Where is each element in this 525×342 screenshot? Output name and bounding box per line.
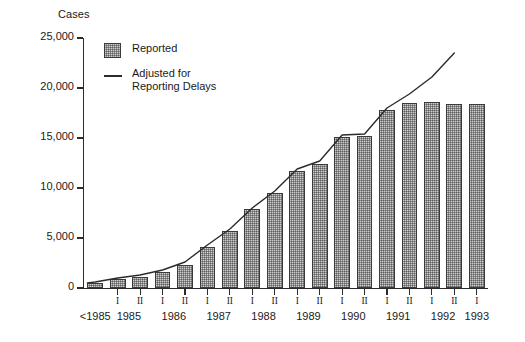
x-axis-tick [319, 289, 320, 295]
y-axis-tick-label: 5,000 [0, 230, 74, 242]
x-axis-year-label: <1985 [80, 310, 111, 322]
x-axis-tick [252, 289, 253, 295]
x-axis-year-label: 1993 [465, 310, 489, 322]
y-axis-tick-label-wrap: 15,000 [0, 130, 74, 142]
x-axis-period-label: II [316, 296, 322, 306]
x-axis-year-label: 1988 [251, 310, 275, 322]
x-axis-year-label: 1992 [431, 310, 455, 322]
x-axis-period-label: II [272, 296, 278, 306]
x-axis-period-label: II [182, 296, 188, 306]
aids-cases-chart: Cases 05,00010,00015,00020,00025,000 <19… [0, 0, 525, 342]
y-axis-tick-label-wrap: 25,000 [0, 30, 74, 42]
x-axis-tick [431, 289, 432, 295]
y-axis-tick [77, 37, 83, 38]
y-axis-tick-label: 20,000 [0, 80, 74, 92]
y-axis-tick-label: 0 [0, 280, 74, 292]
x-axis-tick [297, 289, 298, 295]
x-axis-year-label: 1991 [386, 310, 410, 322]
x-axis-tick [117, 289, 118, 295]
y-axis-tick-label: 15,000 [0, 130, 74, 142]
x-axis-period-label: I [251, 296, 254, 306]
x-axis-tick [476, 289, 477, 295]
x-axis-period-label: I [296, 296, 299, 306]
legend-label-adjusted: Adjusted for Reporting Delays [132, 67, 216, 92]
x-axis-year-label: 1986 [162, 310, 186, 322]
legend-label-adjusted-line1: Adjusted for [132, 67, 216, 80]
x-axis-period-label: I [161, 296, 164, 306]
x-axis-tick [184, 289, 185, 295]
y-axis-tick-label-wrap: 0 [0, 280, 74, 292]
x-axis-period-label: I [385, 296, 388, 306]
x-axis-year-label: 1987 [206, 310, 230, 322]
legend-label-adjusted-line2: Reporting Delays [132, 80, 216, 93]
legend-swatch-reported [104, 43, 121, 58]
x-axis-tick [140, 289, 141, 295]
x-axis-year-label: 1989 [296, 310, 320, 322]
x-axis-period-label: I [116, 296, 119, 306]
x-axis-year-label: 1985 [117, 310, 141, 322]
y-axis-tick [77, 287, 83, 288]
legend-swatch-adjusted [104, 75, 122, 77]
x-axis-year-label: 1990 [341, 310, 365, 322]
x-axis-tick [207, 289, 208, 295]
x-axis-period-label: I [430, 296, 433, 306]
y-axis-tick [77, 187, 83, 188]
y-axis-tick [77, 237, 83, 238]
y-axis-tick-label: 25,000 [0, 30, 74, 42]
y-axis-title: Cases [58, 8, 90, 20]
x-axis-tick [409, 289, 410, 295]
y-axis-tick-label-wrap: 20,000 [0, 80, 74, 92]
x-axis-period-label: II [361, 296, 367, 306]
x-axis-period-label: II [406, 296, 412, 306]
y-axis-tick [77, 87, 83, 88]
x-axis-tick [274, 289, 275, 295]
x-axis-tick [162, 289, 163, 295]
x-axis-period-label: I [475, 296, 478, 306]
x-axis-tick [364, 289, 365, 295]
y-axis-tick-label-wrap: 5,000 [0, 230, 74, 242]
legend-label-reported: Reported [132, 42, 177, 54]
x-axis-tick [342, 289, 343, 295]
x-axis-line [83, 288, 488, 289]
x-axis-period-label: I [341, 296, 344, 306]
x-axis-tick [454, 289, 455, 295]
y-axis-tick [77, 137, 83, 138]
x-axis-period-label: II [227, 296, 233, 306]
x-axis-period-label: II [137, 296, 143, 306]
x-axis-period-label: II [451, 296, 457, 306]
y-axis-tick-label: 10,000 [0, 180, 74, 192]
x-axis-tick [386, 289, 387, 295]
x-axis-period-label: I [206, 296, 209, 306]
y-axis-tick-label-wrap: 10,000 [0, 180, 74, 192]
x-axis-tick [229, 289, 230, 295]
